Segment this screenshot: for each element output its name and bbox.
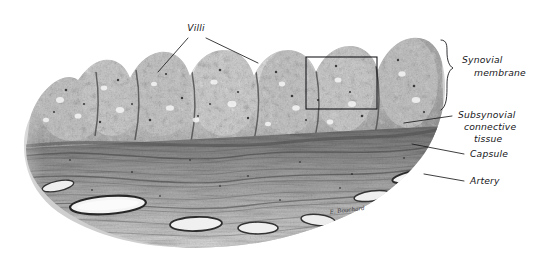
- label-artery: Artery: [469, 175, 500, 186]
- label-subsynovial-line1: Subsynovial: [458, 109, 516, 120]
- label-subsynovial-line3: tissue: [474, 133, 503, 144]
- label-synovial-membrane-line1: Synovial: [462, 54, 503, 65]
- label-capsule: Capsule: [470, 148, 508, 159]
- label-synovial-membrane-line2: membrane: [474, 67, 526, 78]
- micrograph-canvas: Villi Synovial membrane Subsynovial conn…: [0, 0, 535, 272]
- specimen-tissue: [0, 0, 535, 272]
- label-villi: Villi: [187, 22, 205, 33]
- histology-figure: Villi Synovial membrane Subsynovial conn…: [0, 0, 535, 272]
- label-subsynovial-line2: connective: [464, 121, 516, 132]
- edge-vignette: [0, 0, 535, 272]
